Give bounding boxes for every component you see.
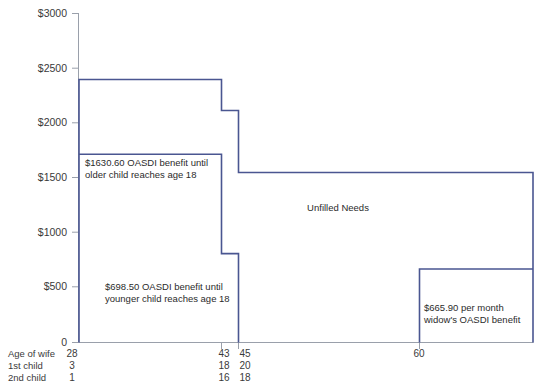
annotation-line-1: $698.50 OASDI benefit until [105,281,223,292]
y-tick-label-500: $500 [44,280,68,292]
annotation-widows-benefit: $665.90 per month widow's OASDI benefit [423,302,521,325]
x-value-2nd-child: 18 [239,372,251,383]
x-value-1st-child: 20 [239,360,251,371]
x-value-age-of-wife: 60 [413,348,425,359]
x-value-age-of-wife: 43 [218,348,230,359]
y-tick-label-3000: $3000 [38,7,67,19]
y-tick-label-1500: $1500 [38,171,67,183]
row-label-age-of-wife: Age of wife [8,348,55,359]
x-value-2nd-child: 1 [69,372,75,383]
x-axis-values-col-60: 60 [413,348,425,359]
y-tick-label-0: 0 [61,336,67,348]
x-value-1st-child: 3 [69,360,75,371]
benefits-vs-needs-step-chart: $3000 $2500 $2000 $1500 $1000 $500 0 $16… [0,0,543,392]
x-value-age-of-wife: 28 [66,348,78,359]
x-value-1st-child: 18 [218,360,230,371]
annotation-line-1: $665.90 per month [424,302,504,313]
annotation-unfilled-needs: Unfilled Needs [307,202,369,213]
annotation-older-child-benefit: $1630.60 OASDI benefit until older child… [85,157,208,180]
x-axis-values-col-43: 43 18 16 [218,348,230,383]
annotation-younger-child-benefit: $698.50 OASDI benefit until younger chil… [105,281,230,304]
y-tick-label-2000: $2000 [38,116,67,128]
x-axis-values-col-28: 28 3 1 [66,348,78,383]
x-value-age-of-wife: 45 [239,348,251,359]
y-axis-ticks [72,14,79,343]
x-axis-ticks [222,343,420,350]
annotation-line-1: $1630.60 OASDI benefit until [85,157,208,168]
oasdi-benefit-step-line [79,154,239,342]
y-tick-label-1000: $1000 [38,226,67,238]
annotation-line-2: older child reaches age 18 [85,169,196,180]
annotation-line-2: widow's OASDI benefit [423,314,521,325]
x-axis-row-labels: Age of wife 1st child 2nd child [8,348,55,383]
annotation-line-1: Unfilled Needs [307,202,369,213]
chart-container: $3000 $2500 $2000 $1500 $1000 $500 0 $16… [0,0,543,392]
x-axis-values-col-45: 45 20 18 [239,348,251,383]
row-label-1st-child: 1st child [8,360,43,371]
annotation-line-2: younger child reaches age 18 [105,293,230,304]
y-tick-label-2500: $2500 [38,62,67,74]
x-value-2nd-child: 16 [218,372,230,383]
y-axis-tick-labels: $3000 $2500 $2000 $1500 $1000 $500 0 [38,7,67,348]
row-label-2nd-child: 2nd child [8,372,46,383]
